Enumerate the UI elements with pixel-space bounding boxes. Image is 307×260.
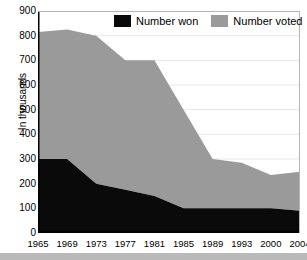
x-tick-label: 1977 — [110, 238, 140, 249]
black-swatch — [114, 15, 131, 27]
y-tick-label: 700 — [8, 55, 36, 65]
y-tick-label: 200 — [8, 179, 36, 189]
y-tick-label: 500 — [8, 105, 36, 115]
y-tick-label: 400 — [8, 129, 36, 139]
x-tick-label: 1993 — [227, 238, 257, 249]
y-tick-label: 0 — [8, 228, 36, 238]
x-tick-label: 1973 — [81, 238, 111, 249]
y-tick-label: 300 — [8, 154, 36, 164]
legend-label: Number won — [136, 15, 198, 27]
x-tick-label: 1965 — [23, 238, 53, 249]
y-tick-label: 900 — [8, 6, 36, 16]
stacked-area-chart: In thousands 900800700600500400300200100… — [0, 0, 307, 260]
legend-entry: Number won — [114, 15, 198, 27]
x-tick-label: 1989 — [198, 238, 228, 249]
x-tick-label: 1969 — [52, 238, 82, 249]
plot-svg — [38, 11, 300, 233]
plot-area — [38, 11, 300, 233]
y-tick-label: 100 — [8, 203, 36, 213]
y-tick-label: 800 — [8, 31, 36, 41]
chart-legend: Number wonNumber voted — [114, 13, 302, 29]
x-tick-label: 1981 — [139, 238, 169, 249]
x-tick-label: 2004 — [285, 238, 307, 249]
x-tick-label: 1985 — [169, 238, 199, 249]
legend-label: Number voted — [233, 15, 302, 27]
x-tick-label: 2000 — [256, 238, 286, 249]
y-tick-label: 600 — [8, 80, 36, 90]
y-axis-tick-labels: 9008007006005004003002001000 — [6, 0, 36, 260]
legend-entry: Number voted — [211, 15, 302, 27]
bottom-band — [0, 253, 307, 260]
gray-swatch — [211, 15, 228, 27]
x-axis-tick-labels: 1965196919731977198119851989199320002004 — [0, 238, 307, 254]
